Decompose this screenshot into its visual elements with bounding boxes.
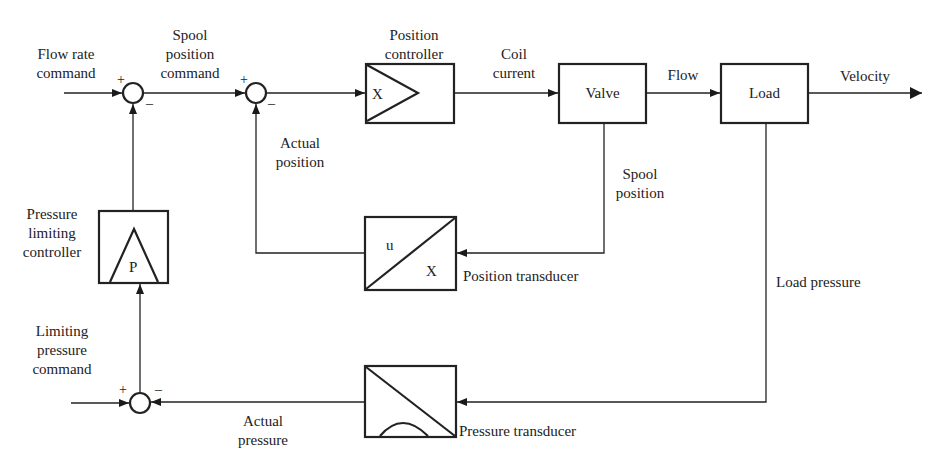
sum3-minus-sign: – [155,383,162,397]
label-line: Coil [486,45,542,64]
label-line: pressure [228,431,298,450]
flow-rate-command-label: Flow rate command [22,45,110,83]
label-line: position [608,184,672,203]
valve-block-label: Valve [559,84,646,103]
spool-position-feedback-line [457,123,604,253]
label-line: controller [366,45,462,64]
spool-position-command-label: Spool position command [145,26,235,83]
position-transducer-label: Position transducer [463,267,578,286]
label-line: Limiting [22,322,102,341]
pressure-transducer-label: Pressure transducer [459,422,576,441]
limiting-pressure-command-label: Limiting pressure command [22,322,102,379]
sum2-plus-sign: + [240,73,248,87]
summing-junction-2 [246,83,266,103]
label-line: position [265,153,335,172]
actual-position-label: Actual position [265,134,335,172]
actual-position-feedback-line [256,104,365,253]
label-line: Flow rate [22,45,110,64]
position-controller-label: Position controller [366,26,462,64]
sum2-minus-sign: – [268,97,275,111]
label-line: controller [12,243,92,262]
label-line: Pressure [12,205,92,224]
sum1-minus-sign: – [146,97,153,111]
label-line: Spool [145,26,235,45]
label-line: Actual [228,412,298,431]
block-diagram-canvas [0,0,939,474]
label-line: Spool [608,165,672,184]
label-line: limiting [12,224,92,243]
label-line: command [22,360,102,379]
summing-junction-1 [123,83,143,103]
spool-position-label: Spool position [608,165,672,203]
actual-pressure-label: Actual pressure [228,412,298,450]
load-block-label: Load [721,84,808,103]
label-line: Position [366,26,462,45]
label-line: command [145,64,235,83]
position-transducer-symbol-x: X [426,262,437,280]
label-line: current [486,64,542,83]
pressure-controller-symbol: P [129,258,137,276]
label-line: Actual [265,134,335,153]
flow-label: Flow [660,66,706,85]
label-line: position [145,45,235,64]
label-line: pressure [22,341,102,360]
position-controller-symbol: X [372,85,383,103]
load-pressure-label: Load pressure [776,273,861,292]
coil-current-label: Coil current [486,45,542,83]
sum3-plus-sign: + [119,383,127,397]
position-transducer-symbol-u: u [386,236,394,254]
velocity-label: Velocity [820,67,910,86]
sum1-plus-sign: + [117,73,125,87]
summing-junction-3 [130,393,150,413]
label-line: command [22,64,110,83]
pressure-limiting-controller-label: Pressure limiting controller [12,205,92,262]
